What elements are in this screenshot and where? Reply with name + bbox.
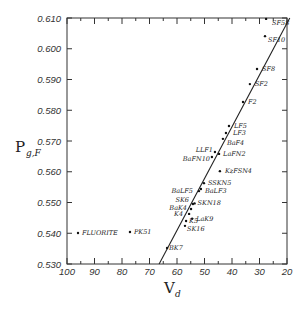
point-marker xyxy=(185,220,187,222)
y-axis: 0.5300.5400.5500.5600.5700.5800.5900.600… xyxy=(37,13,287,270)
data-point: BaLF3 xyxy=(200,187,227,195)
point-label: BaLF5 xyxy=(170,187,193,195)
y-tick-label: 0.540 xyxy=(37,228,61,239)
x-tick-label: 50 xyxy=(199,266,210,277)
point-marker xyxy=(219,170,221,172)
point-label: K4 xyxy=(173,210,183,218)
y-tick-label: 0.600 xyxy=(37,43,61,54)
point-label: BaLF3 xyxy=(204,187,227,195)
point-label: KzFSN4 xyxy=(224,167,252,175)
point-label: LaFN2 xyxy=(222,150,246,158)
data-point: BK7 xyxy=(166,244,184,252)
point-label: PK51 xyxy=(133,228,152,236)
data-point: BaFN10 xyxy=(182,155,213,163)
point-label: SF10 xyxy=(268,36,285,44)
point-label: SF8 xyxy=(262,65,275,73)
point-marker xyxy=(256,68,258,70)
data-point: SF10 xyxy=(264,35,285,44)
y-tick-label: 0.550 xyxy=(37,197,61,208)
point-marker xyxy=(214,151,216,153)
point-marker xyxy=(265,18,267,20)
y-tick-label: 0.590 xyxy=(37,74,61,85)
point-marker xyxy=(188,213,190,215)
point-marker xyxy=(200,188,202,190)
x-tick-label: 20 xyxy=(281,266,293,277)
point-label: SF2 xyxy=(255,80,268,88)
point-label: SKN18 xyxy=(198,199,221,207)
point-marker xyxy=(184,225,186,227)
data-point: SSKN5 xyxy=(203,179,232,187)
data-point: LLF1 xyxy=(195,146,216,154)
data-points: SF58SF10SF8SF2F2LF5LF3BaF4LLF1LaFN2BaFN1… xyxy=(77,18,290,252)
y-tick-label: 0.570 xyxy=(37,136,61,147)
data-point: SF2 xyxy=(249,80,268,88)
point-label: BaF4 xyxy=(226,139,244,147)
x-axis: 1009080706050403020 xyxy=(59,18,293,277)
x-tick-label: 90 xyxy=(89,266,100,277)
data-point: SF58 xyxy=(265,18,289,27)
x-tick-label: 80 xyxy=(117,266,128,277)
point-label: SF58 xyxy=(272,19,289,27)
point-label: F2 xyxy=(247,98,257,106)
point-marker xyxy=(190,208,192,210)
point-label: SK16 xyxy=(187,225,205,233)
point-marker xyxy=(129,231,131,233)
y-tick-label: 0.610 xyxy=(37,13,61,24)
plot-frame xyxy=(67,18,287,264)
data-point: KzFSN4 xyxy=(219,167,252,175)
point-marker xyxy=(242,101,244,103)
point-marker xyxy=(198,190,200,192)
x-tick-label: 60 xyxy=(172,266,183,277)
point-marker xyxy=(77,232,79,234)
x-axis-label-subscript: d xyxy=(175,289,181,299)
point-marker xyxy=(218,153,220,155)
point-label: BaFN10 xyxy=(182,155,210,163)
point-label: SSKN5 xyxy=(208,179,231,187)
point-label: K5 xyxy=(188,217,198,225)
point-marker xyxy=(192,203,194,205)
point-marker xyxy=(222,138,224,140)
point-marker xyxy=(249,83,251,85)
x-axis-title: V d xyxy=(163,279,181,299)
data-point: LF3 xyxy=(225,129,246,137)
data-point: SF8 xyxy=(256,65,275,73)
point-label: BK7 xyxy=(168,244,184,252)
data-point: FLUORITE xyxy=(77,229,118,237)
normal-glass-line xyxy=(159,18,290,264)
x-tick-label: 70 xyxy=(144,266,155,277)
y-tick-label: 0.560 xyxy=(37,166,61,177)
y-axis-label: P xyxy=(15,138,25,156)
point-marker xyxy=(203,182,205,184)
data-point: K5 xyxy=(185,217,198,225)
x-tick-label: 40 xyxy=(227,266,238,277)
y-axis-label-subscript: g,F xyxy=(26,148,42,158)
point-marker xyxy=(264,35,266,37)
data-point: PK51 xyxy=(129,228,152,236)
point-marker xyxy=(228,125,230,127)
point-label: FLUORITE xyxy=(81,229,118,237)
point-marker xyxy=(166,247,168,249)
point-label: SK6 xyxy=(175,196,188,204)
partial-dispersion-chart: 0.5300.5400.5500.5600.5700.5800.5900.600… xyxy=(0,0,305,309)
y-tick-label: 0.580 xyxy=(37,105,61,116)
y-tick-label: 0.530 xyxy=(37,259,61,270)
data-point: SKN18 xyxy=(193,199,220,207)
x-tick-label: 100 xyxy=(59,266,76,277)
data-point: LaFN2 xyxy=(218,150,246,158)
point-marker xyxy=(225,132,227,134)
data-point: SK16 xyxy=(184,225,205,233)
point-label: LLF1 xyxy=(195,146,213,154)
point-marker xyxy=(211,156,213,158)
x-tick-label: 30 xyxy=(254,266,265,277)
point-label: LF3 xyxy=(232,129,246,137)
